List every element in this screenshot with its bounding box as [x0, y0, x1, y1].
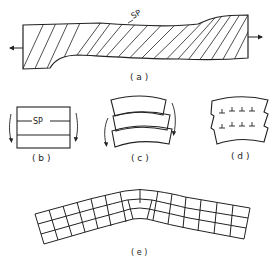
panel-b: SP ( b ) [9, 107, 78, 163]
panel-label-d: ( d ) [231, 151, 249, 161]
shear-arrow-right-icon [74, 113, 78, 142]
panel-label-a: ( a ) [130, 72, 148, 82]
slip-plane-label-a: SP [130, 8, 143, 21]
tension-arrow-left-icon [9, 46, 23, 51]
block-outline [17, 107, 70, 148]
panel-label-b: ( b ) [32, 153, 50, 163]
shear-arrow-left-icon [9, 114, 13, 143]
diagram-canvas: SP ( a ) SP ( b ) ( c ) [0, 0, 275, 263]
hatching [20, 8, 260, 75]
tension-arrow-right-icon [248, 35, 263, 40]
panel-c [104, 96, 176, 147]
shear-arrow-right-icon [172, 103, 176, 136]
panel-label-e: ( e ) [131, 248, 147, 257]
crystal-outline [23, 15, 248, 69]
diagram-svg: SP ( a ) SP ( b ) ( c ) [0, 0, 275, 263]
stepped-crystal-outline [211, 97, 268, 144]
panel-a: SP ( a ) [9, 8, 263, 82]
slip-plane-label-b: SP [33, 117, 43, 126]
shear-arrow-left-icon [104, 118, 108, 147]
dislocation-row-top [219, 107, 255, 113]
dislocation-row-bottom [219, 122, 255, 128]
panel-label-c: ( c ) [131, 153, 149, 163]
panel-d: ( d ) [211, 97, 268, 161]
panel-e [35, 189, 250, 244]
